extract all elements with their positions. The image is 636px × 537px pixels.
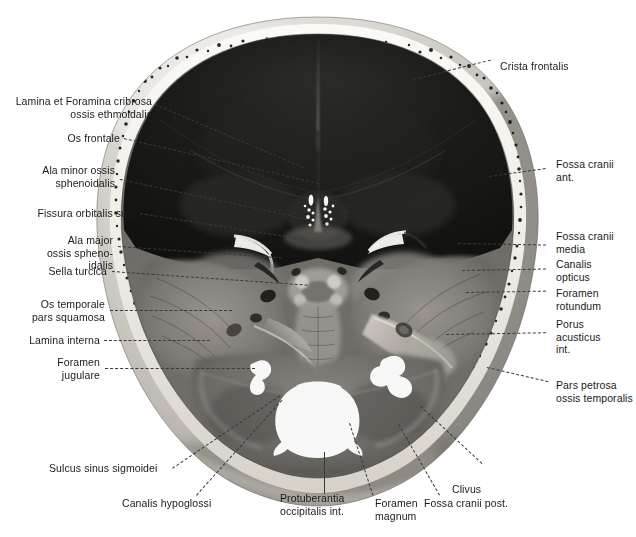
label-ala-minor: Ala minor ossis sphenoidalis bbox=[0, 164, 115, 189]
label-clivus: Clivus bbox=[452, 483, 512, 496]
label-sulcus-sigmoidei: Sulcus sinus sigmoidei bbox=[49, 462, 199, 475]
label-sella-turcica: Sella turcica bbox=[0, 265, 107, 278]
label-pars-petrosa: Pars petrosa ossis temporalis bbox=[556, 379, 636, 404]
label-os-temporale: Os temporale pars squamosa bbox=[0, 298, 105, 323]
label-porus-acusticus: Porus acusticus int. bbox=[556, 318, 626, 356]
label-crista-frontalis: Crista frontalis bbox=[500, 60, 630, 73]
label-protuberantia: Protuberantia occipitalis int. bbox=[280, 492, 380, 517]
label-os-frontale: Os frontale bbox=[0, 132, 120, 145]
label-foramen-rotundum: Foramen rotundum bbox=[556, 287, 634, 312]
label-fossa-post: Fossa cranii post. bbox=[424, 497, 528, 510]
label-canalis-opticus: Canalis opticus bbox=[556, 258, 628, 283]
label-fossa-media: Fossa cranii media bbox=[556, 230, 636, 255]
label-fossa-ant: Fossa cranii ant. bbox=[556, 158, 634, 183]
label-foramen-jugulare: Foramen jugulare bbox=[0, 356, 100, 381]
label-lamina-cribrosa: Lamina et Foramina cribrosa ossis ethmoi… bbox=[0, 95, 152, 120]
label-fissura-orbitalis: Fissura orbitalis sup. bbox=[0, 207, 136, 220]
label-canalis-hypoglossi: Canalis hypoglossi bbox=[122, 497, 262, 510]
label-lamina-interna: Lamina interna bbox=[0, 334, 100, 347]
anatomical-figure: Lamina et Foramina cribrosa ossis ethmoi… bbox=[0, 0, 636, 537]
